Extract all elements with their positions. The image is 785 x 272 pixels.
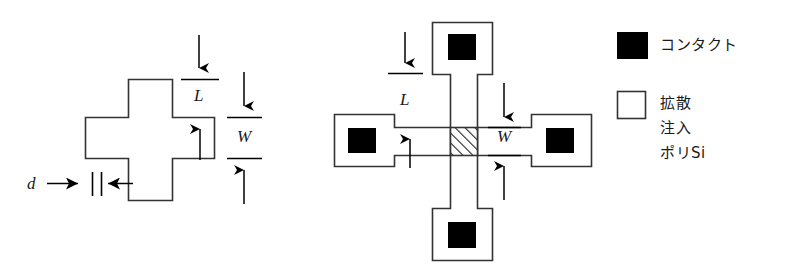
left-label-L: L xyxy=(194,87,203,104)
legend-label-diffusion-line1: 拡散 xyxy=(660,96,691,111)
active-region-hatched xyxy=(451,128,478,156)
legend-swatch-diffusion xyxy=(618,92,646,119)
contact-square-top xyxy=(448,34,476,60)
legend-swatches xyxy=(617,32,648,119)
left-dimension-d xyxy=(47,172,133,196)
legend-label-diffusion-line2: 注入 xyxy=(660,121,691,136)
diagram-canvas: L W d L W コンタクト 拡散 注入 ポリSi xyxy=(0,0,785,272)
right-label-L: L xyxy=(400,91,409,108)
right-label-W: W xyxy=(497,128,511,145)
left-label-W: W xyxy=(237,128,251,145)
right-cross-bridge xyxy=(335,23,592,261)
legend-swatch-contact xyxy=(617,32,648,59)
legend-label-contact: コンタクト xyxy=(660,38,738,53)
legend-label-diffusion-line3: ポリSi xyxy=(660,146,706,161)
contact-square-left xyxy=(348,128,376,153)
contact-square-bottom xyxy=(448,222,476,248)
contact-square-right xyxy=(546,128,574,153)
left-label-d: d xyxy=(27,175,36,192)
